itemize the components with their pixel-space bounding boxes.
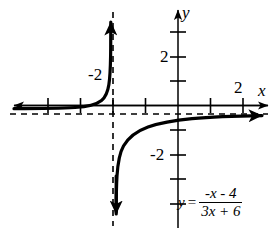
equation-denominator: 3x + 6 [199,203,242,219]
y-axis-label: y [182,4,190,21]
equation-equals-sign: = [188,195,196,210]
graph-figure: y x 2 -2 2 -2 y = -x - 4 3x + 6 [0,0,275,233]
equation-annotation: y = -x - 4 3x + 6 [178,186,242,219]
equation-numerator: -x - 4 [203,186,239,202]
y-tick-label-2: 2 [160,48,169,65]
vertical-asymptote-label: -2 [88,66,102,83]
equation-left-side: y [178,195,185,210]
equation-fraction: -x - 4 3x + 6 [199,186,242,219]
y-tick-label-negative-2: -2 [150,146,164,163]
x-tick-label-2: 2 [234,79,243,96]
x-axis-label: x [258,82,266,99]
